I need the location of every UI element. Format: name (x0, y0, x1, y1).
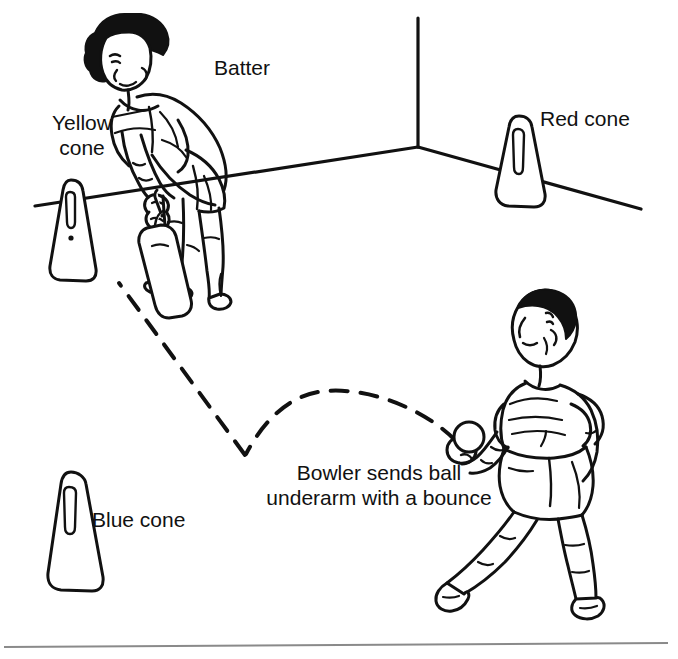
label-red-cone: Red cone (540, 106, 630, 131)
bowler-leg-back-rear (582, 515, 596, 598)
label-bowler-caption: Bowler sends ballunderarm with a bounce (234, 460, 524, 510)
scene-drawing (0, 0, 678, 659)
batter-head (101, 32, 151, 90)
label-batter: Batter (214, 55, 270, 80)
bowler-figure (436, 290, 604, 619)
bowler-shorts-seam (549, 458, 551, 506)
batter-forearm-crease (139, 178, 152, 180)
bowler-neck (539, 366, 541, 386)
ball-path-arc (246, 391, 455, 454)
batter-foot-right (209, 294, 231, 309)
red-cone (496, 116, 545, 207)
batter-knee-right (204, 237, 219, 239)
cricket-ball (454, 422, 484, 452)
bowler-leg-front-top (447, 512, 514, 583)
bowler-collar (525, 381, 559, 389)
label-yellow-cone: Yellowcone (30, 110, 134, 160)
batter-leg-right-outer (199, 211, 209, 299)
yellow-cone-dot (68, 235, 73, 240)
batter-collar (120, 100, 158, 110)
bowler-leg-back-front (558, 519, 576, 599)
batter-arm-back-crease (162, 140, 186, 157)
bowler-shin-front (478, 562, 493, 565)
label-yellow-cone-line1: Yellow (52, 111, 112, 134)
bowler-arm-rear-inner (571, 404, 591, 446)
bowler-shin-back (572, 571, 589, 573)
bowler-knee-back (565, 544, 584, 546)
bowler-shorts-hem (514, 512, 582, 519)
label-bowler-caption-line2: underarm with a bounce (266, 486, 491, 509)
bowler-thumb (461, 454, 472, 459)
batter-shorts-seam (193, 166, 198, 209)
bowler-knee-front (500, 536, 515, 539)
batter-arm-back (178, 120, 188, 172)
yellow-cone (50, 180, 96, 281)
bowler-shirt-fold-1 (510, 399, 557, 404)
red-cone-slot (513, 129, 524, 174)
bowler-shirt-hem (504, 447, 586, 458)
bottom-divider-rule (4, 643, 668, 647)
bat-face-line (152, 245, 168, 247)
label-bowler-caption-line1: Bowler sends ball (297, 461, 462, 484)
bowler-shorts-fold (572, 462, 580, 508)
blue-cone-slot (64, 487, 76, 534)
illustration-canvas: Batter Yellowcone Red cone Blue cone Bow… (0, 0, 678, 659)
bowler-shirt-fold-4 (541, 431, 546, 446)
bowler-shirt-fold-3 (512, 431, 565, 435)
batter-elbow-crease (133, 163, 145, 165)
bowler-shirt-fold-2 (509, 417, 562, 420)
label-yellow-cone-line2: cone (59, 136, 105, 159)
batter-calf-crease (187, 245, 199, 251)
bowler-elbow-crease (491, 447, 503, 450)
label-blue-cone: Blue cone (92, 507, 185, 532)
yellow-cone-slot (66, 192, 75, 228)
bowler-shirt-front (501, 383, 526, 449)
